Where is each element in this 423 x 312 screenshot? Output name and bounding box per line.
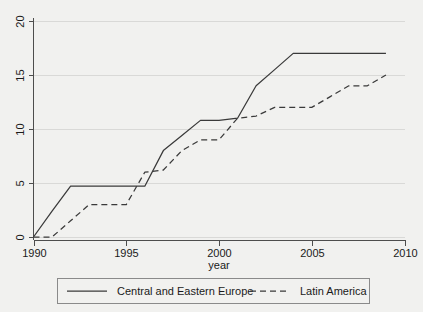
chart-container: 05101520 19901995200020052010 year Centr… [0, 0, 423, 312]
legend-label-central-and-eastern-europe: Central and Eastern Europe [117, 285, 253, 297]
x-axis [34, 241, 407, 247]
plot-series [34, 53, 386, 237]
x-tick-label-2005: 2005 [300, 247, 324, 259]
x-tick-label-1990: 1990 [22, 247, 46, 259]
y-axis [29, 18, 34, 240]
legend-label-latin-america: Latin America [300, 285, 368, 297]
line-chart: 05101520 19901995200020052010 year Centr… [0, 0, 423, 312]
y-tick-label-0: 0 [14, 234, 26, 240]
x-axis-title: year [208, 259, 230, 271]
legend: Central and Eastern Europe Latin America [58, 279, 370, 304]
y-tick-label-15: 15 [14, 69, 26, 81]
y-tick-labels: 05101520 [14, 15, 26, 240]
x-tick-label-2010: 2010 [393, 247, 417, 259]
x-tick-label-1995: 1995 [114, 247, 138, 259]
x-tick-labels: 19901995200020052010 [22, 247, 417, 259]
series-line-central-and-eastern-europe [34, 53, 386, 237]
x-tick-label-2000: 2000 [207, 247, 231, 259]
y-tick-label-20: 20 [14, 15, 26, 27]
series-line-latin-america [34, 75, 386, 237]
y-tick-label-10: 10 [14, 123, 26, 135]
y-tick-label-5: 5 [14, 180, 26, 186]
